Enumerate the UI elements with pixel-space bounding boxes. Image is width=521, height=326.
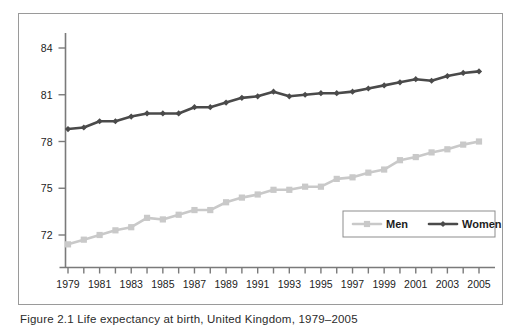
figure-root: 7275788184 19791981198319851987198919911… xyxy=(0,0,521,326)
figure-caption: Figure 2.1 Life expectancy at birth, Uni… xyxy=(20,313,490,326)
chart-frame xyxy=(18,13,503,305)
